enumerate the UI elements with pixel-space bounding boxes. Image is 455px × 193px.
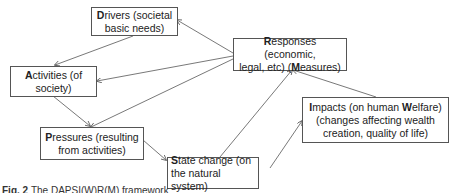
node-text: ctivities (of: [33, 69, 83, 81]
node-initial: M: [291, 61, 300, 73]
node-text: mpacts (on human: [312, 101, 402, 113]
node-text: tate change (on: [178, 154, 251, 166]
node-text: (changes affecting wealth: [316, 114, 435, 126]
arrow-pressures-state: [143, 140, 166, 160]
node-text: easures): [300, 61, 341, 73]
node-text: ressures (resulting: [52, 131, 138, 143]
node-activities: Activities (of society): [10, 66, 97, 97]
node-pressures: Pressures (resulting from activities): [40, 127, 144, 160]
arrow-activities-pressures: [53, 96, 90, 126]
node-text: from activities): [58, 144, 126, 156]
arrow-state-impacts: [270, 121, 302, 168]
caption-label: Fig. 2: [2, 185, 28, 193]
node-text: elfare): [412, 101, 442, 113]
arrow-state-responses: [220, 70, 292, 157]
node-text: creation, quality of life): [323, 127, 428, 139]
node-text: esponses (economic,: [264, 35, 316, 60]
arrow-drivers-activities: [55, 36, 133, 65]
node-drivers: Drivers (societal basic needs): [91, 7, 178, 36]
node-responses: Responses (economic, legal, etc) (Measur…: [233, 38, 347, 71]
node-text: the natural system): [171, 167, 221, 192]
arrow-impacts-responses: [293, 70, 376, 97]
node-state-change: State change (on the natural system): [167, 157, 259, 189]
node-text: legal, etc) (: [239, 61, 291, 73]
node-initial: A: [25, 69, 33, 81]
node-text: basic needs): [105, 22, 165, 34]
node-text: rivers (societal: [104, 9, 172, 21]
node-initial: S: [171, 154, 178, 166]
node-impacts: Impacts (on human Welfare) (changes affe…: [302, 97, 449, 143]
caption-text: The DAPSI(W)R(M) framework: [31, 185, 169, 193]
node-initial: W: [402, 101, 412, 113]
node-text: society): [35, 82, 71, 94]
figure-caption: Fig. 2 The DAPSI(W)R(M) framework: [2, 185, 169, 193]
arrow-responses-drivers: [177, 20, 233, 53]
